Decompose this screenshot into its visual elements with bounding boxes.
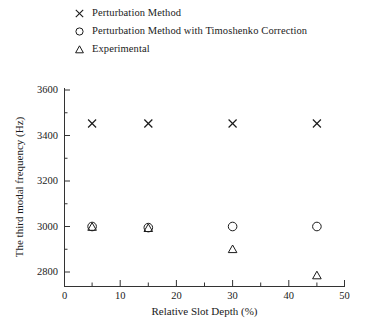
data-point [228,245,237,253]
series-perturbation-method [88,120,321,128]
data-point [313,222,322,231]
y-tick-label-3000: 3000 [37,222,58,233]
legend-entry-experimental: Experimental [66,40,356,58]
x-tick-label-30: 30 [227,290,238,301]
y-axis-tick-labels: 3600 3400 3200 3000 2800 [0,88,58,287]
triangle-marker-icon [66,44,92,55]
x-tick-label-50: 50 [339,290,350,301]
y-tick-label-3200: 3200 [37,176,58,187]
legend-entry-timoshenko-correction: Perturbation Method with Timoshenko Corr… [66,22,356,40]
plot-area [64,88,345,287]
data-markers [64,88,345,287]
chart-legend: Perturbation Method Perturbation Method … [66,4,356,58]
legend-entry-perturbation-method: Perturbation Method [66,4,356,22]
x-axis-tick-labels: 0 10 20 30 40 50 [64,290,345,304]
y-axis-title: The third modal frequency (Hz) [13,82,25,292]
circle-marker-icon [66,26,92,37]
legend-label-timoshenko-correction: Perturbation Method with Timoshenko Corr… [92,25,307,37]
data-point [313,271,322,279]
x-tick-label-20: 20 [171,290,182,301]
y-tick-label-3400: 3400 [37,131,58,142]
figure-container: Perturbation Method Perturbation Method … [0,0,368,336]
x-tick-label-40: 40 [284,290,295,301]
x-tick-label-0: 0 [62,290,67,301]
x-axis-title: Relative Slot Depth (%) [64,305,345,317]
data-point [313,120,321,128]
series-timoshenko-correction [88,222,321,232]
legend-label-experimental: Experimental [92,43,150,55]
data-point [228,222,237,231]
cross-marker-icon [66,8,92,19]
x-tick-label-10: 10 [115,290,126,301]
data-point [88,120,96,128]
data-point [229,120,237,128]
data-point [144,120,152,128]
y-tick-label-2800: 2800 [37,267,58,278]
legend-label-perturbation-method: Perturbation Method [92,7,181,19]
series-experimental [88,223,321,279]
y-tick-label-3600: 3600 [37,85,58,96]
